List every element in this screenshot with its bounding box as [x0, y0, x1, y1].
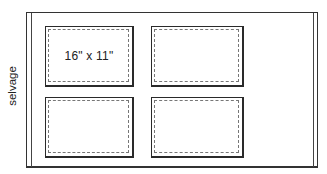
selvage-edge-line-right — [313, 13, 314, 167]
selvage-edge-line-left — [31, 13, 32, 167]
seam-allowance-line — [154, 29, 239, 82]
selvage-label: selvage — [2, 62, 22, 110]
panel-top-left: 16" x 11" — [45, 26, 134, 87]
panel-bottom-right — [151, 97, 244, 158]
selvage-label-text: selvage — [6, 66, 18, 106]
seam-allowance-line — [154, 100, 239, 153]
seam-allowance-line — [48, 100, 129, 153]
panel-bottom-left — [45, 97, 134, 158]
panel-dimension-label: 16" x 11" — [46, 49, 132, 63]
panel-top-right — [151, 26, 244, 87]
